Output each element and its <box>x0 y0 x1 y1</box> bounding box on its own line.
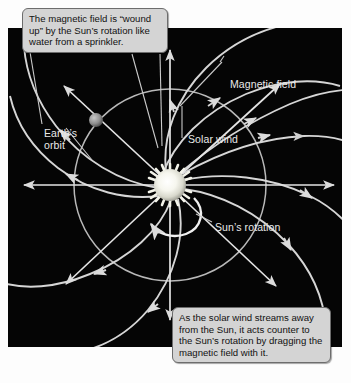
field-lines-svg <box>8 28 342 347</box>
suns-rotation-label: Sun’s rotation <box>215 221 280 233</box>
leader-magnetic-field <box>220 56 224 62</box>
solar-wind-arrow-ne <box>177 84 280 178</box>
diagram-canvas: Magnetic field Solar wind Earth’s orbit … <box>0 0 351 383</box>
magnetic-field-label: Magnetic field <box>230 78 296 90</box>
leader-magnetic-field-2 <box>180 62 222 106</box>
solar-wind-label: Solar wind <box>188 133 238 145</box>
suns-rotation-arrow <box>151 198 201 236</box>
space-diagram-panel: Magnetic field Solar wind Earth’s orbit … <box>8 28 342 347</box>
solar-wind-arrow-sw <box>66 193 163 284</box>
solar-wind-dragging-callout: As the solar wind streams away from the … <box>172 307 331 363</box>
earth <box>89 113 103 127</box>
solar-wind-arrow-nw <box>64 86 163 178</box>
earth-orbit-label: Earth’s orbit <box>44 127 77 151</box>
magnetic-field-winding-callout: The magnetic field is “wound up” by the … <box>22 8 168 53</box>
leader-suns-rotation <box>196 214 212 222</box>
solar-wind-arrow-se <box>177 193 276 286</box>
